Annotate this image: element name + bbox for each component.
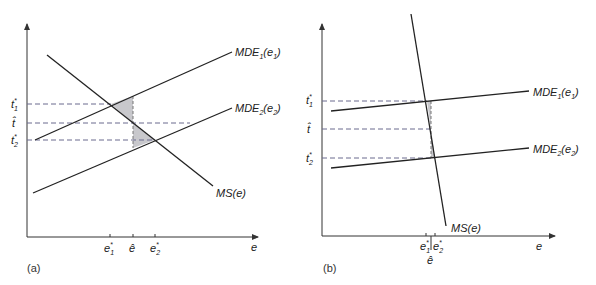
label-e1-star: e1*: [420, 239, 430, 254]
label-e2-star: e2*: [433, 239, 443, 254]
x-axis-label: e: [251, 241, 257, 253]
x-axis-label: e: [536, 240, 542, 252]
label-t1-star: t1*: [11, 97, 18, 112]
panel-label-a: (a): [27, 262, 40, 274]
ms-curve: [47, 55, 213, 186]
mde1-label: MDE1(e1): [235, 46, 281, 60]
shaded-area-upper: [111, 96, 133, 123]
exchange-rate-diagram: t1* t̂ t2* e1* ê e2* e MDE1(e1) MDE2(e2)…: [0, 0, 596, 285]
shaded-area-lower: [133, 123, 155, 148]
label-t-hat: t̂: [12, 116, 16, 129]
label-e-hat: ê: [427, 254, 433, 266]
label-t1-star: t1*: [306, 93, 313, 108]
mde2-curve: [331, 148, 529, 168]
mde1-label: MDE1(e1): [533, 86, 579, 100]
ms-label: MS(e): [451, 222, 481, 234]
mde2-label: MDE2(e2): [235, 102, 281, 116]
label-e1-star: e1*: [104, 241, 114, 256]
label-t2-star: t2*: [11, 133, 18, 148]
ms-label: MS(e): [216, 187, 246, 199]
label-e2-star: e2*: [150, 241, 160, 256]
mde2-label: MDE2(e2): [533, 143, 579, 157]
label-t2-star: t2*: [306, 151, 313, 166]
panel-label-b: (b): [323, 262, 336, 274]
panel-b: t1* t̂ t2* e1* ê e2* e MDE1(e1) MDE2(e2)…: [306, 14, 579, 274]
label-t-hat: t̂: [307, 122, 311, 135]
label-e-hat: ê: [129, 242, 135, 254]
panel-a: t1* t̂ t2* e1* ê e2* e MDE1(e1) MDE2(e2)…: [11, 24, 281, 274]
ms-curve: [411, 14, 446, 226]
